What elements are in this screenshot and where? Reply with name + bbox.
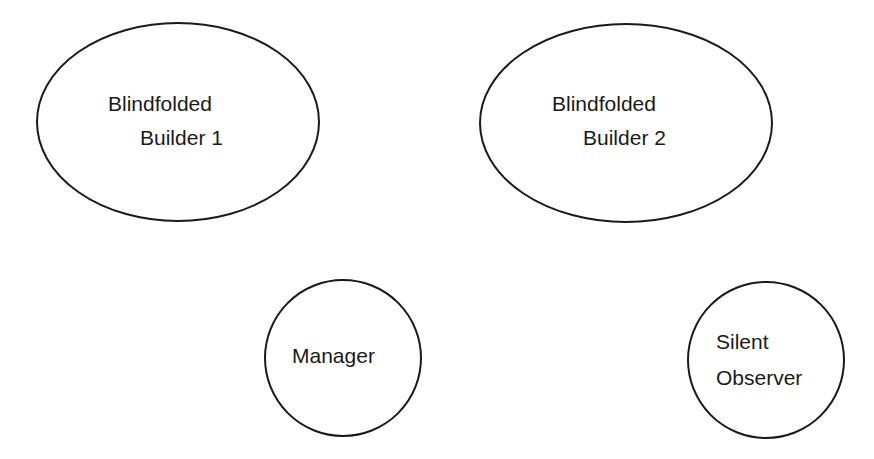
builder1-label-line1: Blindfolded — [108, 92, 212, 116]
manager-label: Manager — [292, 344, 375, 368]
builder1-ellipse — [37, 23, 319, 221]
diagram-canvas — [0, 0, 874, 459]
observer-label-line1: Silent — [716, 330, 769, 354]
builder1-label-line2: Builder 1 — [140, 126, 223, 150]
builder2-ellipse — [480, 24, 772, 222]
observer-circle — [688, 282, 844, 438]
builder2-label-line1: Blindfolded — [552, 92, 656, 116]
observer-label-line2: Observer — [716, 366, 802, 390]
builder2-label-line2: Builder 2 — [583, 126, 666, 150]
